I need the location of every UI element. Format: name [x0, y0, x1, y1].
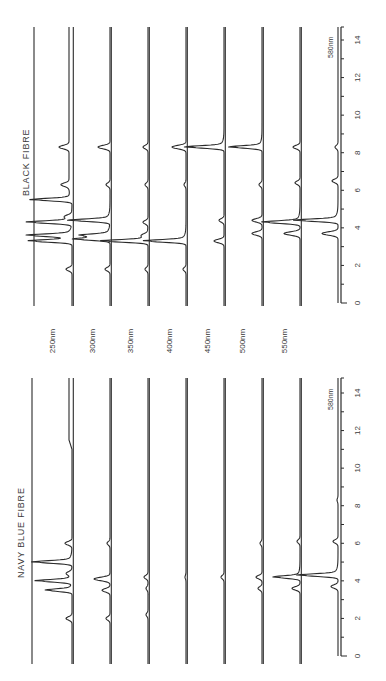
wavelength-label: 400nm: [165, 328, 174, 353]
axis-tick-label: 10: [353, 110, 362, 119]
navy-blue-fibre-title: NAVY BLUE FIBRE: [16, 487, 26, 578]
wavelength-label: 550nm: [280, 328, 289, 353]
wavelength-label: 300nm: [88, 328, 97, 353]
axis-tick-label: 12: [353, 426, 362, 435]
trace-500nm: [229, 27, 262, 306]
wavelength-label: 450nm: [203, 328, 212, 353]
black-fibre-title: BLACK FIBRE: [21, 129, 31, 196]
navy-axis-trace-label: 580nm: [327, 388, 334, 410]
axis-tick-label: 8: [353, 503, 362, 508]
trace-350nm: [144, 378, 148, 664]
trace-450nm: [221, 378, 224, 664]
trace-550nm: [262, 27, 300, 306]
black-fibre-panel: 02468101214: [26, 27, 362, 306]
trace-500nm: [256, 378, 262, 664]
trace-400nm: [185, 378, 186, 664]
axis-tick-label: 14: [353, 388, 362, 397]
trace-250nm: [26, 27, 72, 306]
wavelength-labels: 250nm300nm350nm400nm450nm500nm550nm: [48, 328, 289, 353]
trace-550nm: [273, 378, 300, 664]
axis-tick-label: 0: [353, 300, 362, 305]
axis-tick-label: 6: [353, 541, 362, 546]
trace-580nm: [297, 378, 338, 656]
trace-250nm: [32, 378, 72, 664]
black-axis-trace-label: 580nm: [327, 36, 334, 58]
wavelength-label: 250nm: [48, 328, 57, 353]
axis-tick-label: 4: [353, 225, 362, 230]
axis-tick-label: 2: [353, 616, 362, 621]
navy-blue-fibre-panel: 02468101214: [32, 378, 362, 664]
trace-300nm: [68, 27, 111, 306]
trace-300nm: [94, 378, 110, 664]
axis-tick-label: 8: [353, 150, 362, 155]
axis-tick-label: 10: [353, 463, 362, 472]
axis-tick-label: 2: [353, 263, 362, 268]
trace-350nm: [101, 27, 148, 306]
axis-tick-label: 4: [353, 578, 362, 583]
trace-450nm: [184, 27, 224, 306]
wavelength-label: 500nm: [238, 328, 247, 353]
axis-tick-label: 12: [353, 73, 362, 82]
chromatogram-figure: 02468101214 02468101214 250nm300nm350nm4…: [0, 0, 386, 681]
axis-tick-label: 14: [353, 35, 362, 44]
axis-tick-label: 6: [353, 188, 362, 193]
wavelength-label: 350nm: [126, 328, 135, 353]
axis-tick-label: 0: [353, 653, 362, 658]
